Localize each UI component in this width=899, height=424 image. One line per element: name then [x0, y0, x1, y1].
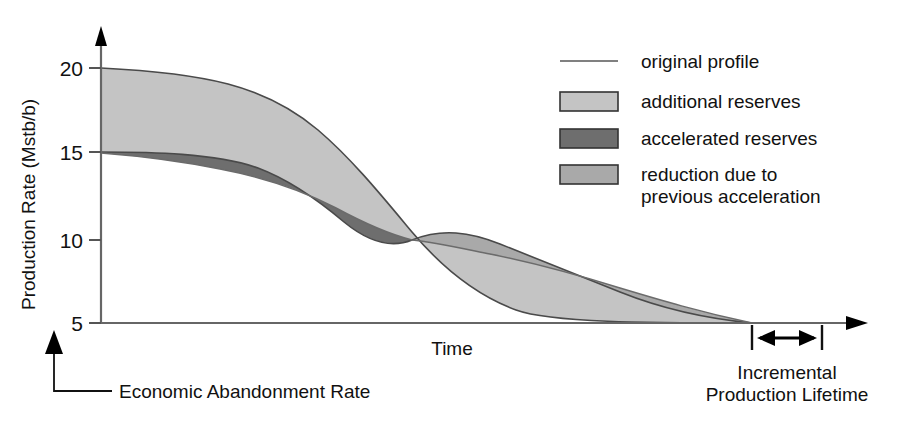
economic-abandonment-label: Economic Abandonment Rate: [119, 381, 370, 402]
legend-label-reduction-line1: reduction due to: [641, 164, 777, 185]
legend-swatch-additional-reserves: [560, 92, 618, 111]
incremental-lifetime-arrowhead-left: [757, 330, 775, 346]
y-tick-label-10: 10: [60, 229, 83, 252]
legend-item-accelerated-reserves[interactable]: accelerated reserves: [560, 128, 817, 149]
y-axis-arrowhead: [95, 26, 107, 46]
legend-item-original-profile[interactable]: original profile: [560, 51, 759, 72]
legend-label-accelerated-reserves: accelerated reserves: [641, 128, 817, 149]
legend-swatch-accelerated-reserves: [560, 129, 618, 148]
legend-item-additional-reserves[interactable]: additional reserves: [560, 91, 800, 112]
chart-figure: 20 15 10 5 Production Rate (Mstb/b) Time…: [0, 0, 899, 424]
legend: original profile additional reserves acc…: [560, 51, 821, 207]
legend-label-additional-reserves: additional reserves: [641, 91, 800, 112]
legend-label-reduction-line2: previous acceleration: [641, 186, 821, 207]
economic-abandonment-arrowhead: [45, 330, 63, 354]
y-tick-label-5: 5: [71, 312, 83, 335]
y-tick-label-20: 20: [60, 57, 83, 80]
legend-item-reduction[interactable]: reduction due to previous acceleration: [560, 164, 821, 207]
legend-label-original-profile: original profile: [641, 51, 759, 72]
x-axis-arrowhead: [846, 316, 868, 330]
production-profile-chart: 20 15 10 5 Production Rate (Mstb/b) Time…: [0, 0, 899, 424]
incremental-lifetime-label-line1: Incremental: [737, 362, 836, 383]
x-axis-title: Time: [431, 338, 473, 359]
legend-swatch-reduction: [560, 165, 618, 184]
incremental-lifetime-arrowhead-right: [799, 330, 817, 346]
economic-abandonment-leader: [54, 354, 112, 391]
y-tick-label-15: 15: [60, 141, 83, 164]
y-axis-title: Production Rate (Mstb/b): [18, 99, 39, 310]
incremental-lifetime-label-line2: Production Lifetime: [706, 384, 869, 405]
